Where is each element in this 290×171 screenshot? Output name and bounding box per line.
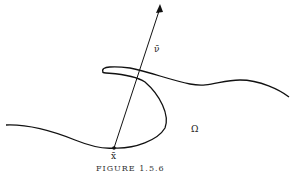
figure-caption: FIGURE 1.5.6 — [96, 164, 165, 171]
arrowhead-icon — [156, 4, 163, 13]
diagram-canvas — [0, 0, 290, 171]
point-x-label: x̄ — [111, 151, 116, 161]
normal-vector-label: ν̄ — [154, 44, 159, 54]
region-omega-label: Ω — [191, 124, 198, 134]
boundary-curve-hook — [103, 67, 289, 148]
point-x-marker — [112, 146, 116, 150]
normal-vector-arrow — [114, 8, 160, 148]
boundary-curve-left — [6, 125, 114, 148]
